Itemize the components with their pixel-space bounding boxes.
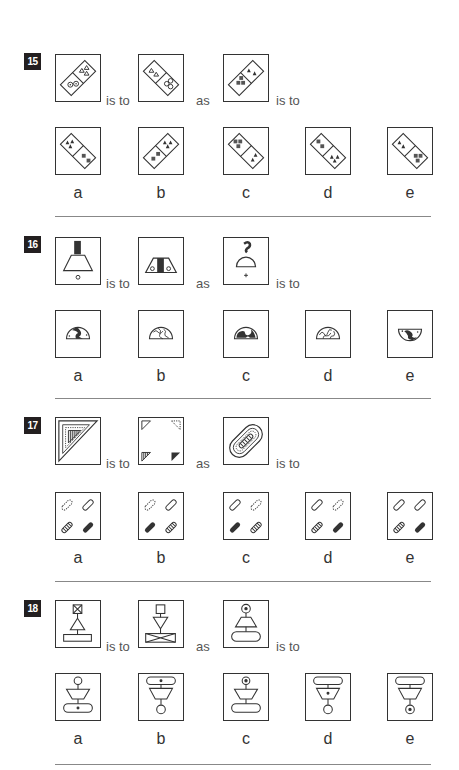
connector-as: as: [196, 456, 210, 471]
stack-icon: [139, 674, 183, 720]
option-label: c: [223, 730, 269, 748]
dome-icon: [306, 311, 350, 357]
stack-icon: [56, 674, 100, 720]
question-number-badge: 18: [24, 600, 41, 617]
trapezoid-icon: [139, 238, 183, 284]
stack-icon: [388, 674, 432, 720]
connector-is-to: is to: [276, 456, 300, 471]
connector-is-to: is to: [106, 456, 130, 471]
q17-prompt-figure-3: [223, 417, 269, 465]
q16-option-e[interactable]: [387, 310, 433, 358]
q15-option-b[interactable]: [138, 127, 184, 175]
q18-option-e[interactable]: [387, 673, 433, 721]
lamp-icon: [56, 238, 100, 284]
q15-option-d[interactable]: [305, 127, 351, 175]
domino-icon: [388, 128, 432, 174]
divider: [55, 216, 431, 217]
connector-is-to: is to: [106, 639, 130, 654]
stack-icon: [56, 601, 100, 647]
q16-prompt-figure-2: [138, 237, 184, 285]
q15-option-a[interactable]: [55, 127, 101, 175]
capsules-icon: [56, 493, 100, 539]
option-label: a: [55, 730, 101, 748]
connector-is-to: is to: [106, 276, 130, 291]
q16-prompt-figure-1: [55, 237, 101, 285]
option-label: a: [55, 549, 101, 567]
option-label: b: [138, 549, 184, 567]
divider: [55, 581, 431, 582]
dome-icon: [224, 238, 268, 284]
dome-icon: [139, 311, 183, 357]
option-label: c: [223, 184, 269, 202]
stack-icon: [224, 674, 268, 720]
q17-option-a[interactable]: [55, 492, 101, 540]
question-number-badge: 16: [24, 236, 41, 253]
option-label: a: [55, 184, 101, 202]
q17-option-d[interactable]: [305, 492, 351, 540]
q18-option-d[interactable]: [305, 673, 351, 721]
option-label: c: [223, 367, 269, 385]
option-label: e: [387, 367, 433, 385]
option-label: d: [305, 730, 351, 748]
capsules-icon: [306, 493, 350, 539]
domino-icon: [56, 55, 100, 101]
domino-icon: [139, 128, 183, 174]
stack-icon: [139, 601, 183, 647]
option-label: e: [387, 184, 433, 202]
q15-prompt-figure-3: [223, 54, 269, 102]
connector-as: as: [196, 93, 210, 108]
q15-option-e[interactable]: [387, 127, 433, 175]
nested-capsules-icon: [224, 418, 268, 464]
connector-as: as: [196, 639, 210, 654]
q16-prompt-figure-3: [223, 237, 269, 285]
q15-prompt-figure-2: [138, 54, 184, 102]
q18-option-c[interactable]: [223, 673, 269, 721]
q15-prompt-figure-1: [55, 54, 101, 102]
option-label: e: [387, 730, 433, 748]
domino-icon: [224, 55, 268, 101]
q17-prompt-figure-2: [138, 417, 184, 465]
q17-option-e[interactable]: [387, 492, 433, 540]
option-label: a: [55, 367, 101, 385]
option-label: b: [138, 184, 184, 202]
dome-icon: [224, 311, 268, 357]
dome-icon: [388, 311, 432, 357]
connector-is-to: is to: [106, 93, 130, 108]
connector-as: as: [196, 276, 210, 291]
q18-prompt-figure-3: [223, 600, 269, 648]
divider: [55, 764, 431, 765]
capsules-icon: [139, 493, 183, 539]
option-label: e: [387, 549, 433, 567]
q16-option-b[interactable]: [138, 310, 184, 358]
domino-icon: [139, 55, 183, 101]
q18-prompt-figure-2: [138, 600, 184, 648]
connector-is-to: is to: [276, 93, 300, 108]
capsules-icon: [224, 493, 268, 539]
connector-is-to: is to: [276, 639, 300, 654]
q17-option-c[interactable]: [223, 492, 269, 540]
q17-prompt-figure-1: [55, 417, 101, 465]
q18-prompt-figure-1: [55, 600, 101, 648]
option-label: b: [138, 730, 184, 748]
divider: [55, 398, 431, 399]
connector-is-to: is to: [276, 276, 300, 291]
q18-option-a[interactable]: [55, 673, 101, 721]
corner-triangles-icon: [139, 418, 183, 464]
option-label: b: [138, 367, 184, 385]
q17-option-b[interactable]: [138, 492, 184, 540]
q15-option-c[interactable]: [223, 127, 269, 175]
option-label: d: [305, 184, 351, 202]
option-label: c: [223, 549, 269, 567]
q16-option-c[interactable]: [223, 310, 269, 358]
stack-icon: [306, 674, 350, 720]
question-number-badge: 17: [24, 417, 41, 434]
q16-option-d[interactable]: [305, 310, 351, 358]
nested-triangles-icon: [56, 418, 100, 464]
option-label: d: [305, 367, 351, 385]
dome-icon: [56, 311, 100, 357]
domino-icon: [224, 128, 268, 174]
q16-option-a[interactable]: [55, 310, 101, 358]
option-label: d: [305, 549, 351, 567]
q18-option-b[interactable]: [138, 673, 184, 721]
domino-icon: [56, 128, 100, 174]
